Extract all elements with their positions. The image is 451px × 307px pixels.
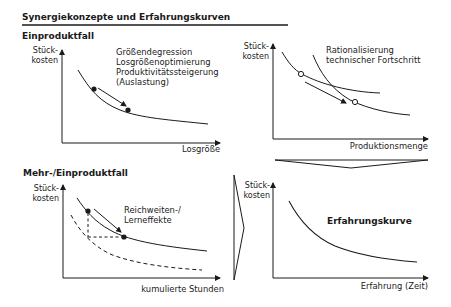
annotation-line2: Lerneffekte [124, 216, 172, 226]
x-axis-label: Produktionsmenge [350, 142, 428, 152]
x-axis-label: Erfahrung (Zeit) [361, 282, 428, 292]
y-axis-label-line2: kosten [243, 191, 270, 200]
annotation-line2: technischer Fortschritt [326, 56, 421, 66]
y-axis-label-line1: Stück- [245, 181, 270, 190]
x-axis-label: Losgröße [182, 145, 220, 155]
point-start [85, 208, 90, 213]
curve-label: Erfahrungskurve [327, 216, 412, 226]
y-axis-label-line1: Stück- [33, 46, 58, 55]
y-axis-label-line2: kosten [32, 194, 59, 203]
y-axis-label-line2: kosten [242, 52, 269, 61]
down-triangle [275, 160, 428, 168]
page-title: Synergiekonzepte und Erfahrungskurven [22, 12, 230, 22]
x-axis-label: kumulierte Stunden [141, 285, 224, 295]
panel-bottom-left-graphics [63, 185, 220, 278]
section-einproduktfall: Einproduktfall [22, 31, 94, 41]
point-start [91, 86, 96, 91]
experience-curve [289, 201, 417, 262]
point-old [298, 71, 303, 76]
point-end [125, 107, 130, 112]
annotation-line4: (Auslastung) [116, 78, 169, 88]
point-end [121, 234, 126, 239]
y-axis-label-line1: Stück- [34, 184, 59, 193]
y-axis-label-line2: kosten [31, 56, 58, 65]
section-mehr-einproduktfall: Mehr-/Einproduktfall [23, 168, 128, 178]
panel-bottom-right-graphics [273, 183, 428, 278]
point-new [352, 99, 357, 104]
y-axis-label-line1: Stück- [244, 42, 269, 51]
shift-arrow [98, 88, 126, 106]
